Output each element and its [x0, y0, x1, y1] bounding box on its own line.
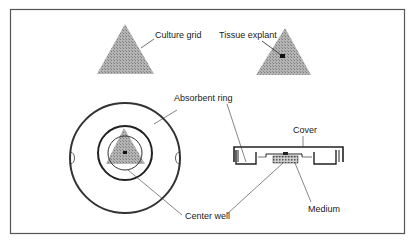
medium-icon — [273, 156, 298, 163]
label-culture-grid: Culture grid — [155, 30, 202, 40]
label-cover: Cover — [293, 125, 317, 135]
label-center-well: Center well — [185, 211, 230, 221]
figure-frame — [11, 10, 405, 234]
organ-culture-diagram: Culture grid Tissue explant Absorbent ri… — [0, 0, 413, 241]
culture-grid-triangle — [97, 24, 154, 74]
label-tissue-explant: Tissue explant — [219, 30, 277, 40]
dish-top-view — [70, 103, 182, 215]
label-absorbent-ring: Absorbent ring — [174, 93, 233, 103]
dish-cross-section — [227, 104, 343, 214]
label-medium: Medium — [308, 204, 340, 214]
